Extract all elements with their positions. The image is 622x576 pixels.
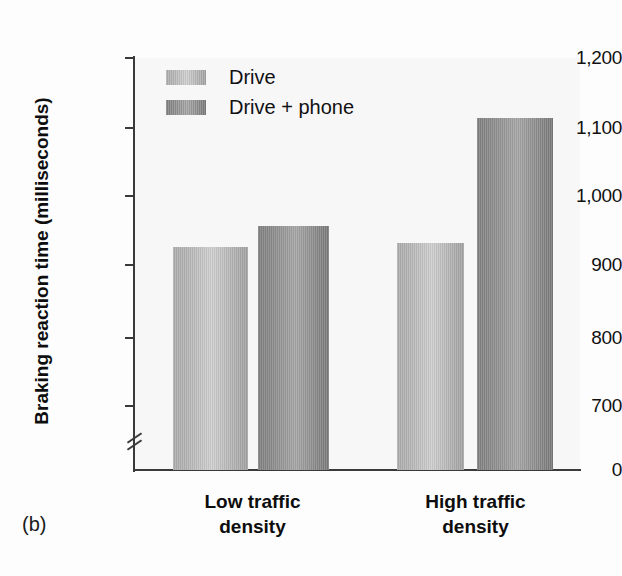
x-category-label-low-traffic: Low traffic density xyxy=(160,489,345,539)
legend-swatch-drive xyxy=(166,70,206,85)
bar-high-traffic-drive xyxy=(397,243,464,470)
bar-chart-figure: 1,200 1,100 1,000 900 800 700 0 Drive Dr… xyxy=(0,0,622,576)
bar-low-traffic-drive xyxy=(173,247,248,470)
y-tick-mark-800 xyxy=(125,337,134,339)
y-tick-mark-900 xyxy=(125,264,134,266)
y-tick-label-1200: 1,200 xyxy=(538,47,622,69)
x-category-label-low-traffic-line2: density xyxy=(160,514,345,539)
legend-item-drive-phone: Drive + phone xyxy=(166,92,354,122)
x-category-label-high-traffic: High traffic density xyxy=(383,489,568,539)
panel-caption: (b) xyxy=(22,513,46,536)
legend-swatch-drive-phone xyxy=(166,100,206,115)
y-tick-mark-700 xyxy=(125,405,134,407)
bar-high-traffic-drive-phone xyxy=(477,118,553,470)
y-tick-mark-1000 xyxy=(125,195,134,197)
legend-label-drive: Drive xyxy=(229,66,276,89)
legend-label-drive-phone: Drive + phone xyxy=(229,96,354,119)
bar-low-traffic-drive-phone xyxy=(258,226,329,470)
x-category-label-low-traffic-line1: Low traffic xyxy=(160,489,345,514)
y-axis-title: Braking reaction time (milliseconds) xyxy=(31,41,53,481)
x-category-label-high-traffic-line1: High traffic xyxy=(383,489,568,514)
x-category-label-high-traffic-line2: density xyxy=(383,514,568,539)
y-axis-break-icon xyxy=(126,432,143,452)
y-tick-mark-1100 xyxy=(125,127,134,129)
legend-item-drive: Drive xyxy=(166,62,354,92)
legend: Drive Drive + phone xyxy=(166,62,354,122)
y-tick-mark-1200 xyxy=(125,57,134,59)
